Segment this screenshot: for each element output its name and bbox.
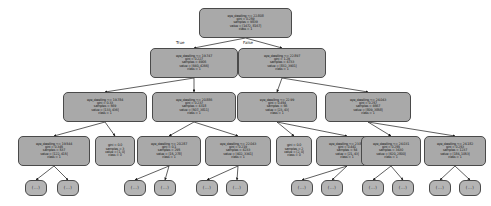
tree-leaf-node: (...) [362, 180, 384, 196]
tree-edge [282, 78, 368, 92]
tree-leaf-node: (...) [57, 180, 79, 196]
node-text-line: class = 0 [287, 154, 300, 158]
tree-decision-node: gini = 0.0samples = 3value = [1, 0]class… [95, 136, 135, 166]
node-text-line: class = 1 [98, 112, 111, 116]
tree-edge [332, 166, 347, 180]
tree-decision-node: eye_dwelling <= 24.031gini = 0.255sample… [361, 136, 421, 166]
node-text-line: (...) [161, 186, 169, 190]
edge-label-false: False [243, 40, 253, 45]
edge-label-true: True [176, 40, 185, 45]
tree-leaf-node: (...) [321, 180, 343, 196]
tree-leaf-node: (...) [154, 180, 176, 196]
tree-decision-node: eye_dwelling <= 22.043gini = 0.219sample… [205, 136, 271, 166]
tree-edge [54, 122, 105, 136]
tree-leaf-node: (...) [291, 180, 313, 196]
tree-edge [373, 166, 391, 180]
node-text-line: class = 1 [275, 68, 288, 72]
node-text-line: (...) [203, 186, 211, 190]
tree-edge [368, 122, 391, 136]
node-text-line: (...) [328, 186, 336, 190]
tree-leaf-node: (...) [124, 180, 146, 196]
node-text-line: class = 1 [187, 112, 200, 116]
tree-edge [194, 122, 238, 136]
node-text-line: class = 1 [47, 156, 60, 160]
tree-edge [440, 166, 455, 180]
tree-decision-node: eye_dwelling <= 24.043gini = 0.257sample… [325, 92, 411, 122]
node-text-line: class = 1 [340, 156, 353, 160]
node-text-line: class = 1 [448, 156, 461, 160]
tree-edge [277, 78, 282, 92]
tree-edge [194, 38, 246, 48]
decision-tree-diagram: eye_dwelling <= 22.808gini = 0.259sample… [0, 0, 491, 206]
tree-leaf-node: (...) [196, 180, 218, 196]
tree-decision-node: eye_dwelling <= 19.747gini = 0.227sample… [150, 48, 238, 78]
node-text-line: class = 1 [239, 28, 252, 32]
node-text-line: class = 1 [231, 156, 244, 160]
tree-edge [36, 166, 54, 180]
tree-edge [302, 166, 347, 180]
tree-edge [455, 166, 470, 180]
node-text-line: (...) [369, 186, 377, 190]
node-text-line: (...) [399, 186, 407, 190]
tree-edge [105, 122, 115, 136]
node-text-line: class = 0 [108, 154, 121, 158]
node-text-line: class = 1 [162, 156, 175, 160]
tree-edge [135, 166, 169, 180]
tree-leaf-node: (...) [392, 180, 414, 196]
node-text-line: (...) [32, 186, 40, 190]
tree-decision-node: eye_dwelling <= 19.784gini = 0.33samples… [63, 92, 147, 122]
node-text-line: (...) [131, 186, 139, 190]
node-text-line: (...) [64, 186, 72, 190]
tree-leaf-node: (...) [226, 180, 248, 196]
tree-decision-node: eye_dwelling <= 22.99gini = 0.454samples… [237, 92, 317, 122]
tree-decision-node: eye_dwelling <= 19.544gini = 0.345sample… [18, 136, 90, 166]
tree-edge [277, 122, 294, 136]
tree-decision-node: eye_dwelling <= 24.182gini = 0.253sample… [424, 136, 486, 166]
node-text-line: class = 1 [384, 156, 397, 160]
tree-edge [368, 122, 455, 136]
node-text-line: class = 1 [361, 112, 374, 116]
node-text-line: (...) [436, 186, 444, 190]
tree-decision-node: gini = 0.0samples = 2value = [2, 0]class… [276, 136, 312, 166]
tree-edge [391, 166, 403, 180]
tree-leaf-node: (...) [459, 180, 481, 196]
node-text-line: (...) [298, 186, 306, 190]
tree-leaf-node: (...) [25, 180, 47, 196]
tree-edge [207, 166, 238, 180]
node-text-line: (...) [233, 186, 241, 190]
tree-decision-node: eye_dwelling <= 20.287gini = 0.1samples … [137, 136, 201, 166]
tree-leaf-node: (...) [429, 180, 451, 196]
node-text-line: (...) [466, 186, 474, 190]
tree-edge [54, 166, 68, 180]
node-text-line: class = 1 [187, 68, 200, 72]
tree-decision-node: eye_dwelling <= 22.808gini = 0.259sample… [199, 8, 292, 38]
tree-decision-node: eye_dwelling <= 20.886gini = 0.237sample… [152, 92, 236, 122]
tree-edge [169, 122, 194, 136]
tree-edge [105, 78, 194, 92]
tree-decision-node: eye_dwelling <= 22.897gini = 1.29samples… [238, 48, 326, 78]
node-text-line: class = 1 [270, 112, 283, 116]
tree-edge [165, 166, 169, 180]
tree-edge [237, 166, 238, 180]
tree-edge [277, 122, 347, 136]
